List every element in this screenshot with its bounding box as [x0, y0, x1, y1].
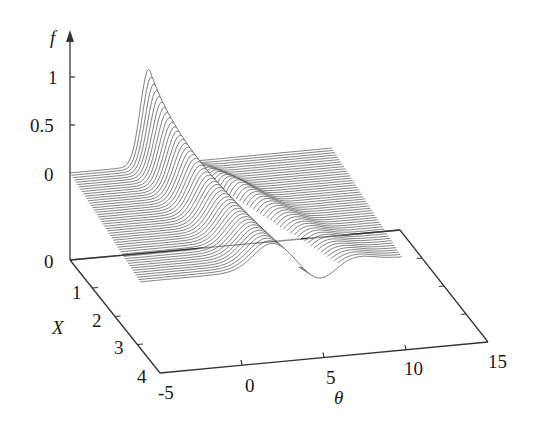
x-tick-3: 3	[114, 337, 124, 358]
f-tick-0.5: 0.5	[30, 115, 54, 136]
f-tick-1: 1	[48, 67, 58, 88]
surface-curves	[70, 70, 402, 282]
floor-zero-label: 0	[44, 251, 54, 272]
f-axis-label: f	[50, 27, 58, 48]
f-tick-0: 0	[44, 164, 54, 185]
theta-tick-15: 15	[488, 351, 507, 372]
x-tick-2: 2	[92, 310, 102, 331]
theta-tick-5: 5	[326, 367, 336, 388]
theta-tick-0: 0	[245, 375, 255, 396]
theta-axis-label: θ	[334, 387, 343, 408]
x-axis-label: X	[51, 317, 65, 338]
f-axis: f 1 0.5 0	[30, 27, 75, 260]
x-tick-1: 1	[72, 282, 82, 303]
theta-tick-10: 10	[404, 358, 423, 379]
f-axis-arrow-icon	[66, 30, 74, 42]
surface-plot: f 1 0.5 0 0 1 2 3 4 X -5 0 5 10 15 θ	[0, 0, 536, 431]
surface-curve	[70, 70, 332, 174]
x-tick-4: 4	[137, 366, 147, 387]
theta-tick--5: -5	[158, 382, 174, 403]
